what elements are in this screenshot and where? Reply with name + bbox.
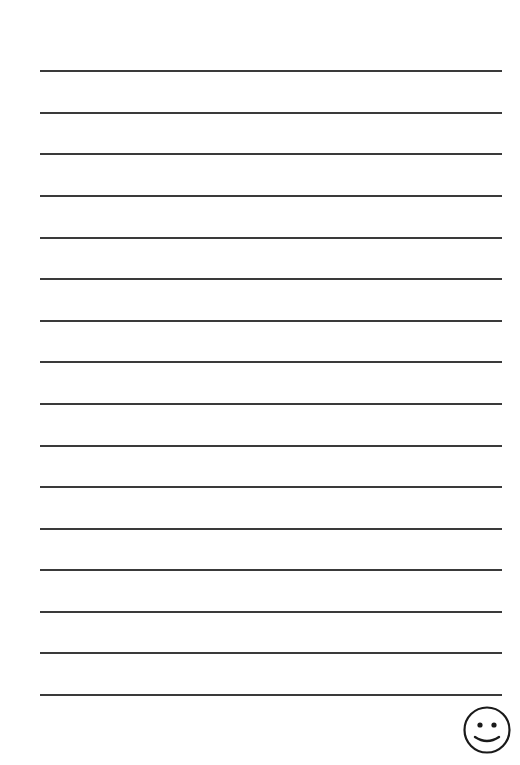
writing-line: [40, 694, 502, 696]
writing-line: [40, 195, 502, 197]
smiley-face-icon: [462, 705, 512, 755]
writing-line: [40, 569, 502, 571]
writing-line: [40, 361, 502, 363]
writing-line: [40, 112, 502, 114]
writing-line: [40, 528, 502, 530]
writing-line: [40, 320, 502, 322]
writing-line: [40, 611, 502, 613]
writing-line: [40, 70, 502, 72]
writing-line: [40, 403, 502, 405]
writing-line: [40, 153, 502, 155]
writing-line: [40, 652, 502, 654]
writing-line: [40, 278, 502, 280]
writing-line: [40, 237, 502, 239]
writing-line: [40, 445, 502, 447]
writing-line: [40, 486, 502, 488]
